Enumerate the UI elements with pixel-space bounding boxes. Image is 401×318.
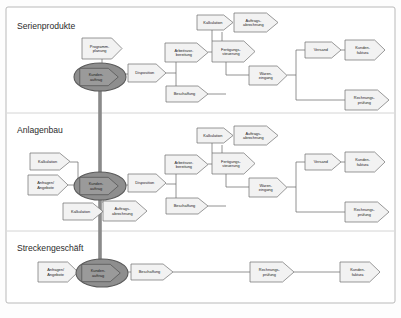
node-label: prüfung: [358, 212, 371, 217]
node-label: prüfung: [358, 100, 371, 105]
node-label: steuerung: [222, 163, 239, 168]
node-label: Kalkulation: [203, 133, 222, 138]
node-label: Disposition: [135, 180, 154, 185]
node-sg-kundenauftrag[interactable]: Kunden-auftrag: [76, 259, 128, 287]
node-label: eingang: [259, 187, 273, 192]
node-label: bereitung: [176, 52, 192, 57]
node-label: faktura: [357, 162, 370, 167]
node-ab-kundenauftrag[interactable]: Kunden-auftrag: [74, 172, 126, 200]
node-label: auftrag: [90, 186, 102, 191]
node-label: Versand: [314, 47, 328, 52]
node-label: Beschaffung: [174, 91, 196, 96]
section-title-streckengeschaeft: Streckengeschäft: [17, 243, 84, 253]
node-sp-kundenauftrag[interactable]: Kunden-auftrag: [74, 63, 126, 91]
node-label: Kalkulation: [38, 159, 57, 164]
node-label: auftrag: [90, 77, 102, 82]
node-label: faktura: [357, 50, 370, 55]
node-label: faktura: [352, 272, 365, 277]
section-title-anlagenbau: Anlagenbau: [17, 125, 63, 135]
node-label: abrechnung: [243, 135, 264, 140]
node-label: abrechnung: [112, 211, 133, 216]
section-title-serienprodukte: Serienprodukte: [17, 21, 76, 31]
node-label: steuerung: [222, 51, 239, 56]
node-label: Beschaffung: [174, 203, 196, 208]
node-label: Angebote: [47, 272, 64, 277]
node-label: Beschaffung: [139, 269, 161, 274]
node-label: prüfung: [263, 272, 276, 277]
node-label: planung: [93, 48, 107, 53]
node-label: bereitung: [176, 164, 192, 169]
diagram-canvas: .nshape{fill:#f2f2f2;stroke:#6f6f6f;stro…: [0, 0, 401, 318]
node-label: Kalkulation: [71, 209, 90, 214]
node-label: Disposition: [135, 70, 154, 75]
node-label: eingang: [259, 75, 273, 80]
node-label: Kalkulation: [203, 20, 222, 25]
node-label: Angebote: [37, 185, 54, 190]
process-flow-diagram: .nshape{fill:#f2f2f2;stroke:#6f6f6f;stro…: [0, 0, 401, 318]
node-label: auftrag: [92, 273, 104, 278]
node-label: abrechnung: [243, 22, 264, 27]
node-label: Versand: [314, 159, 328, 164]
